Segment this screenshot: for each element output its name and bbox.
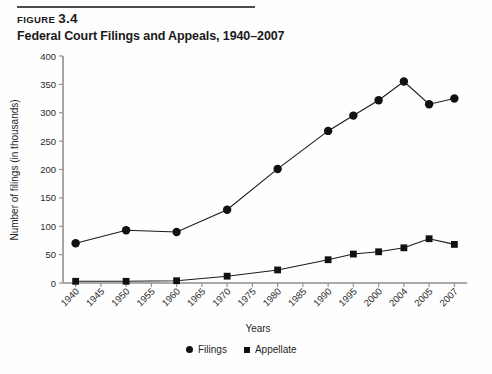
- square-marker-icon: [244, 347, 250, 353]
- x-tick-label: 1945: [84, 286, 107, 309]
- data-point-appellate: [72, 278, 79, 285]
- x-tick-label: 2000: [361, 286, 384, 309]
- x-tick-label: 1960: [159, 286, 182, 309]
- data-point-appellate: [173, 277, 180, 284]
- x-tick-label: 1970: [210, 286, 233, 309]
- y-tick-label: 200: [40, 164, 56, 175]
- x-axis: 1940194519501955196019651970197519801985…: [58, 283, 467, 308]
- data-point-appellate: [400, 244, 407, 251]
- data-point-appellate: [325, 256, 332, 263]
- x-tick-label: 2007: [437, 286, 460, 309]
- x-axis-title: Years: [245, 323, 270, 334]
- legend-label-appellate: Appellate: [255, 344, 297, 355]
- data-point-appellate: [451, 241, 458, 248]
- y-tick-label: 350: [40, 79, 56, 90]
- y-axis-title: Number of filings (in thousands): [9, 99, 20, 240]
- data-point-filings: [122, 226, 130, 234]
- data-point-filings: [450, 94, 458, 102]
- x-tick-label: 1985: [286, 286, 309, 309]
- x-tick-label: 1990: [311, 286, 334, 309]
- data-point-appellate: [224, 273, 231, 280]
- chart-svg: 050100150200250300350400 194019451950195…: [0, 0, 492, 374]
- data-point-filings: [374, 96, 382, 104]
- x-tick-label: 1995: [336, 286, 359, 309]
- data-point-filings: [324, 127, 332, 135]
- y-tick-label: 100: [40, 221, 56, 232]
- data-point-filings: [400, 77, 408, 85]
- series-line-filings: [76, 82, 455, 244]
- x-tick-label: 1955: [134, 286, 157, 309]
- y-tick-label: 0: [51, 278, 56, 289]
- y-tick-label: 300: [40, 107, 56, 118]
- x-tick-label: 2005: [412, 286, 435, 309]
- figure-container: FIGURE3.4 Federal Court Filings and Appe…: [0, 0, 492, 374]
- x-tick-label: 1965: [185, 286, 208, 309]
- data-point-filings: [223, 206, 231, 214]
- legend-label-filings: Filings: [198, 344, 227, 355]
- data-point-filings: [273, 165, 281, 173]
- y-tick-label: 150: [40, 192, 56, 203]
- chart-legend: Filings Appellate: [186, 344, 297, 355]
- x-tick-label: 1975: [235, 286, 258, 309]
- data-point-filings: [349, 111, 357, 119]
- x-tick-label: 1950: [109, 286, 132, 309]
- data-point-appellate: [350, 251, 357, 258]
- x-tick-label: 1940: [58, 286, 81, 309]
- data-point-appellate: [375, 248, 382, 255]
- x-tick-label: 2004: [387, 286, 410, 309]
- y-axis: 050100150200250300350400: [40, 51, 63, 289]
- data-series-group: [71, 77, 458, 284]
- legend-item-appellate: Appellate: [244, 344, 297, 355]
- x-tick-label: 1980: [260, 286, 283, 309]
- chart-plot-area: 050100150200250300350400 194019451950195…: [0, 0, 492, 374]
- data-point-filings: [172, 228, 180, 236]
- data-point-appellate: [274, 267, 281, 274]
- circle-marker-icon: [186, 346, 193, 353]
- data-point-appellate: [123, 278, 130, 285]
- series-line-appellate: [76, 239, 455, 282]
- data-point-appellate: [426, 235, 433, 242]
- data-point-filings: [71, 239, 79, 247]
- y-tick-label: 50: [45, 249, 56, 260]
- data-point-filings: [425, 100, 433, 108]
- y-tick-label: 250: [40, 136, 56, 147]
- y-tick-label: 400: [40, 51, 56, 62]
- legend-item-filings: Filings: [186, 344, 227, 355]
